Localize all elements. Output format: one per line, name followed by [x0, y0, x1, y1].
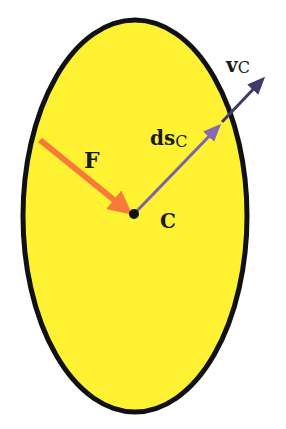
velocity-label-sub: C: [238, 58, 250, 77]
force-label: F: [84, 147, 100, 173]
displacement-label-sub: C: [175, 132, 187, 151]
center-point: [129, 209, 139, 219]
velocity-label: vC: [225, 53, 250, 77]
point-label: C: [160, 209, 176, 233]
displacement-label-main: ds: [150, 126, 175, 150]
rigid-body-diagram: F C dsC vC: [0, 0, 286, 429]
